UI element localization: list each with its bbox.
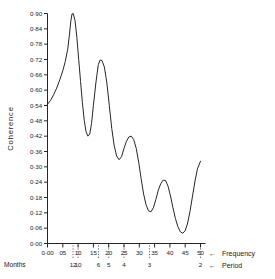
y-axis: 0·000·060·120·180·240·300·360·420·480·54… [6,10,48,247]
y-axis-tick-label: 0·12 [30,209,43,216]
period-arrow-icon: ← [209,262,216,269]
period-tick-label: 5 [107,261,111,268]
y-axis-tick-label: 0·00 [30,240,43,247]
frequency-axis-caption: Frequency [222,250,256,258]
y-axis-tick-label: 0·78 [30,40,43,47]
x-axis-tick-label: 0·00 [42,249,55,256]
x-axis-tick-label: 40 [167,249,174,256]
y-axis-tick-label: 0·30 [30,163,43,170]
period-tick-label: 2 [199,261,203,268]
y-axis-tick-label: 0·36 [30,148,43,155]
x-axis-tick-label: 45 [182,249,189,256]
x-axis-tick-label: 35 [151,249,158,256]
y-axis-tick-label: 0·42 [30,132,43,139]
y-axis-tick-label: 0·84 [30,25,43,32]
x-axis-tick-label: 05 [59,249,66,256]
months-unit-label: Months [4,261,26,268]
y-axis-tick-label: 0·18 [30,194,43,201]
frequency-arrow-icon: ← [209,250,216,257]
y-axis-tick-label: 0·60 [30,86,43,93]
period-tick-label: 10 [75,261,82,268]
period-tick-label: 3 [148,261,152,268]
y-axis-tick-label: 0·72 [30,56,43,63]
period-tick-label: 4 [122,261,126,268]
y-axis-tick-label: 0·48 [30,117,43,124]
x-axis-tick-label: 15 [90,249,97,256]
coherence-chart-figure: 0·000·060·120·180·240·300·360·420·480·54… [0,0,275,279]
period-axis-caption: Period [222,262,242,269]
data-series-group [48,14,201,234]
y-axis-tick-label: 0·90 [30,10,43,17]
period-tick-label: 6 [97,261,101,268]
y-axis-tick-label: 0·06 [30,224,43,231]
y-axis-tick-label: 0·24 [30,178,43,185]
x-axis: 0·0005101520253035404550 [42,244,206,257]
y-axis-title: Coherence [6,106,15,150]
axis-captions: ←Frequency←Period [209,250,256,269]
chart-canvas: 0·000·060·120·180·240·300·360·420·480·54… [0,0,275,279]
y-axis-tick-label: 0·66 [30,71,43,78]
y-axis-tick-label: 0·54 [30,102,43,109]
coherence-line [48,14,201,234]
x-axis-tick-label: 30 [136,249,143,256]
